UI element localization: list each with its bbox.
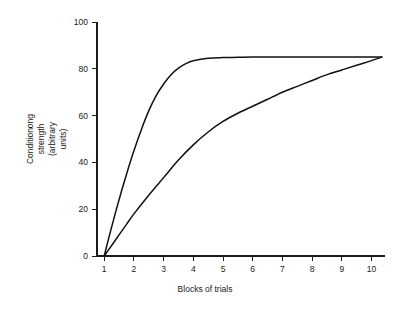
x-tick-label: 6	[250, 264, 255, 274]
y-tick-label: 100	[74, 17, 88, 27]
x-tick-label: 9	[339, 264, 344, 274]
x-tick-label: 4	[191, 264, 196, 274]
y-tick-label: 60	[79, 111, 89, 121]
x-tick-label: 7	[280, 264, 285, 274]
y-axis-title-line: units)	[58, 128, 68, 149]
learning-curve-chart: 0 20 40 60 80 100 1 2 3 4 5 6	[0, 0, 398, 310]
x-tick-label: 10	[367, 264, 377, 274]
x-tick-label: 5	[221, 264, 226, 274]
y-tick-label: 40	[79, 157, 89, 167]
chart-background	[0, 0, 398, 310]
y-axis-title-line: strength	[36, 123, 46, 154]
x-tick-label: 8	[310, 264, 315, 274]
y-axis-title-line: (arbitrary	[47, 121, 57, 156]
x-tick-label: 3	[161, 264, 166, 274]
chart-figure: 0 20 40 60 80 100 1 2 3 4 5 6	[0, 0, 398, 310]
x-tick-label: 2	[132, 264, 137, 274]
x-tick-label: 1	[102, 264, 107, 274]
y-tick-label: 0	[83, 251, 88, 261]
y-tick-label: 80	[79, 64, 89, 74]
x-axis-title: Blocks of trials	[178, 284, 233, 294]
y-axis-title-line: Conditionong	[25, 114, 35, 164]
y-tick-label: 20	[79, 204, 89, 214]
